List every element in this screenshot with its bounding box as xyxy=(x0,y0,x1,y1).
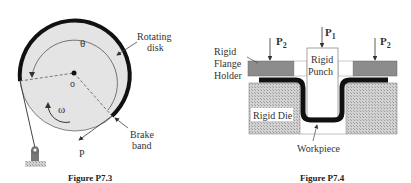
label-force-p: P xyxy=(79,148,85,159)
label-rotating: Rotating xyxy=(137,31,171,42)
brake-band-leader xyxy=(115,118,128,128)
label-p1: P1 xyxy=(325,26,336,41)
label-theta: θ xyxy=(80,37,85,49)
flange-holder-left xyxy=(248,61,294,76)
label-disk: disk xyxy=(147,42,164,53)
rigid-die-right xyxy=(346,83,397,134)
label-brake: Brake xyxy=(130,129,154,140)
center-point xyxy=(72,71,77,76)
figure-p7-4: P2 P1 P2 Rigid Flange Holder Rigid Punch… xyxy=(214,26,397,183)
label-omega: ω xyxy=(58,103,65,115)
caption-p7-4: Figure P7.4 xyxy=(300,173,345,183)
workpiece-leader xyxy=(313,125,317,141)
label-p2-right: P2 xyxy=(380,35,391,50)
label-band: band xyxy=(132,140,151,151)
label-p2-left: P2 xyxy=(276,35,287,50)
label-workpiece: Workpiece xyxy=(297,143,341,154)
label-holder: Holder xyxy=(214,70,242,81)
label-rigid-die: Rigid Die xyxy=(253,110,293,121)
ground-icon xyxy=(25,161,46,167)
label-origin: o xyxy=(70,78,75,89)
label-punch: Punch xyxy=(308,66,333,77)
label-punch-rigid: Rigid xyxy=(311,54,333,65)
label-flange-rigid: Rigid xyxy=(214,46,236,57)
caption-p7-3: Figure P7.3 xyxy=(68,173,113,183)
label-flange: Flange xyxy=(214,58,242,69)
figures-canvas: θ o ω Rotating disk Brake band P Figure … xyxy=(0,0,411,183)
figure-p7-3: θ o ω Rotating disk Brake band P Figure … xyxy=(20,21,172,183)
flange-holder-right xyxy=(353,61,397,76)
